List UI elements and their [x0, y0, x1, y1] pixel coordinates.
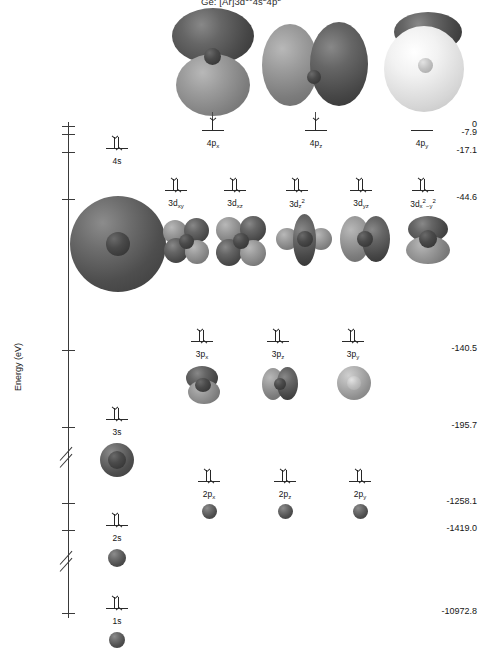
orbital-image-2pz [278, 504, 293, 519]
level-label-4px: 4px [207, 138, 219, 148]
electron-arrow-up [114, 137, 115, 148]
orbital-image-1s [109, 632, 125, 648]
electron-arrow-down [298, 179, 299, 190]
orbital-image-3dxy [163, 218, 209, 264]
level-bar [106, 419, 128, 420]
axis-tick [62, 350, 75, 351]
orbital-energy-diagram: Ge: [Ar]3d104s24p2 Energy (eV) 0 -7.9 -1… [0, 0, 482, 654]
electron-arrow-down [354, 330, 355, 341]
level-bar [412, 190, 434, 191]
axis-tick [62, 134, 75, 135]
orbital-image-4py [378, 12, 466, 112]
level-bar [411, 130, 433, 131]
level-label-3dz2: 3dz2 [289, 198, 305, 209]
electron-arrow-up [294, 179, 295, 190]
electron-arrow-down [118, 597, 119, 608]
level-label-3s: 3s [113, 427, 122, 437]
level-bar [274, 481, 296, 482]
level-label-2pz: 2pz [279, 489, 291, 499]
title-mid-4p: 4p [267, 0, 278, 7]
page-title: Ge: [Ar]3d104s24p2 [0, 0, 482, 7]
electron-arrow-down [361, 470, 362, 481]
electron-arrow-up [114, 597, 115, 608]
orbital-image-3px [186, 366, 220, 404]
orbital-image-2s [108, 549, 126, 567]
level-label-3pz: 3pz [272, 349, 284, 359]
level-label-3px: 3px [196, 349, 208, 359]
electron-arrow-up [282, 470, 283, 481]
level-label-3dxz: 3dxz [227, 198, 242, 208]
level-bar [350, 190, 372, 191]
orbital-image-3dyz [340, 216, 390, 264]
electron-arrow-down [118, 514, 119, 525]
level-label-4py: 4py [416, 138, 428, 148]
electron-arrow-down [236, 179, 237, 190]
level-label-3dxy: 3dxy [168, 198, 183, 208]
electron-arrow-up [199, 330, 200, 341]
level-bar [191, 341, 213, 342]
title-sup-3d: 10 [245, 0, 252, 2]
level-label-4s: 4s [113, 156, 122, 166]
level-label-2px: 2px [203, 489, 215, 499]
electron-arrow-up [173, 179, 174, 190]
level-bar [224, 190, 246, 191]
axis-tick-label-8: -10972.8 [420, 606, 482, 616]
orbital-image-2py [353, 504, 368, 519]
axis-tick-label-4: -140.5 [420, 343, 482, 353]
axis-tick-label-7: -1419.0 [420, 523, 482, 533]
electron-arrow-up [357, 470, 358, 481]
energy-axis-line [68, 122, 69, 618]
level-bar [165, 190, 187, 191]
axis-break-upper [60, 460, 78, 474]
title-main: Ge: [Ar]3d [201, 0, 245, 7]
electron-arrow-down [424, 179, 425, 190]
level-bar [342, 341, 364, 342]
electron-arrow-down [118, 408, 119, 419]
level-bar [349, 481, 371, 482]
level-label-2s: 2s [113, 533, 122, 543]
electron-arrow-up [114, 408, 115, 419]
axis-tick-label-5: -195.7 [420, 420, 482, 430]
electron-arrow-up [232, 179, 233, 190]
electron-arrow-up [420, 179, 421, 190]
electron-arrow-down [362, 179, 363, 190]
electron-arrow-up [358, 179, 359, 190]
axis-break-lower [60, 564, 78, 578]
level-label-3py: 3py [347, 349, 359, 359]
level-label-2py: 2py [354, 489, 366, 499]
axis-tick [62, 427, 75, 428]
axis-tick [62, 126, 75, 127]
level-label-1s: 1s [113, 616, 122, 626]
level-bar [106, 148, 128, 149]
orbital-image-2px [202, 504, 217, 519]
electron-arrow-down [286, 470, 287, 481]
axis-tick [62, 530, 75, 531]
electron-arrow-down [279, 330, 280, 341]
orbital-image-3dx2y2 [406, 216, 450, 264]
orbital-image-4s [70, 196, 166, 292]
electron-arrow-down [118, 137, 119, 148]
level-bar [305, 130, 327, 131]
title-mid-4s: 4s [253, 0, 263, 7]
axis-tick [62, 503, 75, 504]
electron-arrow-up [315, 119, 316, 130]
level-bar [267, 341, 289, 342]
level-bar [198, 481, 220, 482]
axis-tick [62, 152, 75, 153]
level-bar [286, 190, 308, 191]
electron-arrow-up [275, 330, 276, 341]
axis-tick [62, 613, 75, 614]
electron-arrow-down [203, 330, 204, 341]
orbital-image-4px [170, 8, 256, 118]
title-sup-4p: 2 [277, 0, 281, 2]
level-bar [106, 608, 128, 609]
axis-tick-label-2: -17.1 [420, 145, 482, 155]
level-bar [106, 525, 128, 526]
orbital-image-3pz [262, 367, 298, 401]
energy-axis-label: Energy (eV) [13, 327, 23, 407]
level-label-3dyz: 3dyz [353, 198, 368, 208]
level-label-4pz: 4pz [310, 138, 322, 148]
level-label-3dx2y2: 3dx2−y2 [410, 198, 436, 209]
electron-arrow-up [212, 119, 213, 130]
orbital-image-3s [100, 443, 134, 477]
